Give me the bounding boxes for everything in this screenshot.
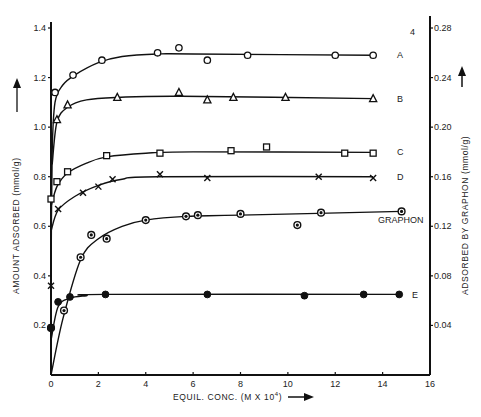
series-a-data-point [244, 52, 250, 58]
y-axis-arrow-right-icon [458, 66, 466, 87]
series-d-data-point [370, 175, 376, 181]
y-tick-label-left: 1.0 [33, 122, 46, 132]
series-a-data-point [370, 52, 376, 58]
y-axis-title-left: AMOUNT ADSORBED (mmol/g) [11, 157, 21, 294]
y-tick-label-right: 0.12 [434, 221, 452, 231]
x-axis-title: EQUIL. CONC. (M X 104) [173, 391, 282, 402]
series-c-data-point [104, 153, 110, 159]
marker-dot [400, 210, 403, 213]
y-axis-arrow-left-icon [13, 78, 21, 112]
marker-dot [79, 256, 82, 259]
series-graphon-data-point [103, 235, 110, 242]
series-graphon-data-point [318, 209, 325, 216]
series-c-data-point [342, 150, 348, 156]
y-tick-label-right: 0.08 [434, 271, 452, 281]
series-label-c: C [397, 147, 404, 157]
y-tick-label-left: 0.2 [33, 320, 46, 330]
marker-dot [62, 309, 65, 312]
x-tick-label: 10 [283, 379, 293, 389]
series-a-data-point [204, 57, 210, 63]
series-e-data-point [301, 292, 308, 299]
y-tick-label-left: 0.8 [33, 172, 46, 182]
x-tick-label: 14 [378, 379, 388, 389]
marker-dot [196, 214, 199, 217]
series-curves [51, 54, 402, 375]
series-label-graphon: GRAPHON [378, 215, 424, 225]
series-a-data-point [176, 45, 182, 51]
y-tick-label-right: 0.20 [434, 122, 452, 132]
series-a-data-point [52, 89, 58, 95]
series-a-data-point [154, 50, 160, 56]
series-curve-c [51, 152, 373, 207]
x-tick-label: 6 [191, 379, 196, 389]
series-markers-b [53, 88, 376, 122]
marker-dot [144, 218, 147, 221]
y-tick-label-left: 0.4 [33, 271, 46, 281]
series-b-data-point [370, 95, 377, 102]
y-tick-label-left: 0.6 [33, 221, 46, 231]
x-axis-title-suffix: ) [279, 392, 282, 402]
y-tick-label-left: 1.4 [33, 23, 46, 33]
series-label-a: A [397, 50, 403, 60]
marker-dot [90, 233, 93, 236]
series-b-data-point [230, 93, 237, 100]
y-tick-label-right: 0.04 [434, 320, 452, 330]
axes: 02468101214160.20.40.60.81.01.21.40.040.… [33, 16, 451, 389]
y-tick-label-right: 0.28 [434, 23, 452, 33]
marker-dot [105, 237, 108, 240]
x-tick-label: 2 [96, 379, 101, 389]
marker-dot [296, 223, 299, 226]
marker-dot [239, 212, 242, 215]
y-tick-label-left: 1.2 [33, 73, 46, 83]
series-c-data-point [370, 150, 376, 156]
series-e-data-point [102, 291, 109, 298]
series-e-data-point [360, 291, 367, 298]
x-axis-arrow-icon [288, 393, 314, 401]
series-c-data-point [48, 196, 54, 202]
series-graphon-data-point [61, 307, 68, 314]
x-tick-label: 4 [143, 379, 148, 389]
series-label-e: E [412, 290, 418, 300]
series-c-data-point [264, 144, 270, 150]
series-b-data-point [64, 101, 71, 108]
x-tick-label: 16 [425, 379, 435, 389]
series-e-data-point [204, 291, 211, 298]
right-axis-top-note: 4 [410, 27, 415, 37]
series-e-data-point [48, 325, 55, 332]
series-e-data-point [396, 291, 403, 298]
x-tick-label: 0 [48, 379, 53, 389]
series-curve-e [51, 294, 399, 340]
series-a-data-point [332, 52, 338, 58]
series-b-data-point [114, 93, 121, 100]
x-tick-label: 8 [238, 379, 243, 389]
series-graphon-data-point [398, 208, 405, 215]
series-graphon-data-point [77, 254, 84, 261]
y-tick-label-right: 0.16 [434, 172, 452, 182]
series-c-data-point [65, 169, 71, 175]
series-e-data-point [67, 294, 74, 301]
series-markers-graphon [48, 208, 405, 331]
series-markers-d [48, 171, 376, 289]
series-label-b: B [397, 94, 403, 104]
series-curve-a [51, 54, 373, 289]
series-graphon-data-point [183, 213, 190, 220]
series-b-data-point [175, 88, 182, 95]
series-graphon-data-point [194, 212, 201, 219]
series-graphon-data-point [294, 222, 301, 229]
series-markers-a [52, 45, 377, 96]
adsorption-isotherm-chart: 02468101214160.20.40.60.81.01.21.40.040.… [0, 0, 481, 417]
series-markers [48, 45, 405, 332]
series-graphon-data-point [142, 217, 149, 224]
x-tick-label: 12 [330, 379, 340, 389]
x-axis-title-main: EQUIL. CONC. (M X 10 [173, 392, 275, 402]
series-graphon-data-point [88, 232, 95, 239]
y-tick-label-right: 0.24 [434, 73, 452, 83]
series-c-data-point [54, 179, 60, 185]
series-curve-b [52, 96, 373, 164]
series-labels: ABCDGRAPHONE [378, 50, 424, 300]
series-label-d: D [397, 172, 404, 182]
series-d-data-point [204, 175, 210, 181]
series-graphon-data-point [237, 210, 244, 217]
series-a-data-point [70, 72, 76, 78]
series-a-data-point [99, 57, 105, 63]
